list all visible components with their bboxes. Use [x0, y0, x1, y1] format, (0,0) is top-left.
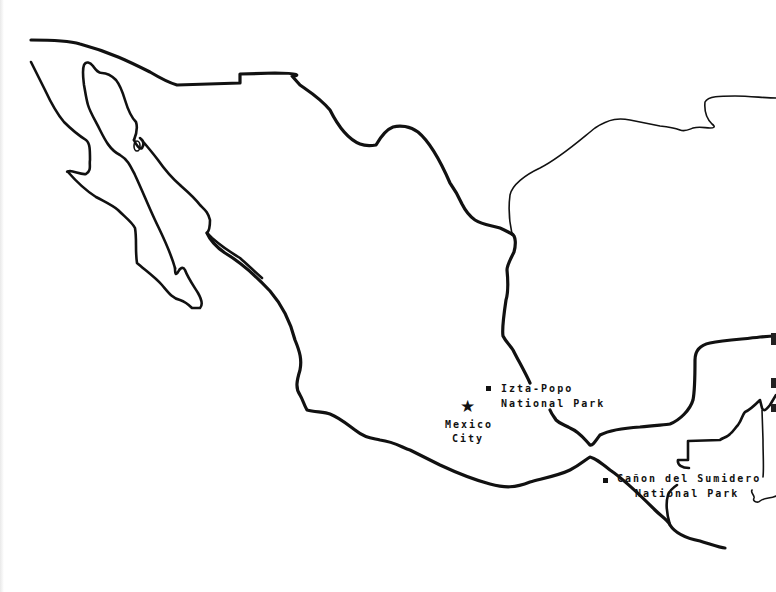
canon-del-sumidero-label-line2: National Park: [635, 487, 739, 501]
izta-popo-label-line2: National Park: [501, 397, 605, 411]
mexico-city-label-line1: Mexico: [445, 418, 493, 432]
baja-pacific-coast: [31, 62, 202, 308]
mexico-map: Izta-Popo National Park ★ Mexico City Ca…: [0, 0, 776, 592]
capital-star-icon: ★: [460, 398, 475, 415]
sonora-coast: [134, 138, 262, 278]
belize-border: [762, 410, 763, 477]
park-marker-icon: [603, 478, 608, 483]
guatemala-river: [752, 490, 776, 502]
scan-mark: [771, 378, 776, 388]
guatemala-border: [678, 395, 776, 468]
scan-mark: [771, 404, 776, 412]
scan-mark: [771, 333, 776, 345]
izta-popo-label-line1: Izta-Popo: [501, 382, 573, 396]
canon-del-sumidero-label-line1: Cañon del Sumidero: [617, 472, 761, 486]
map-outline: [0, 0, 776, 592]
texas-coast: [509, 96, 776, 234]
mexico-city-label-line2: City: [452, 432, 484, 446]
gulf-coast-south: [550, 336, 776, 445]
park-marker-icon: [486, 386, 491, 391]
gulf-coast-west: [503, 234, 530, 383]
